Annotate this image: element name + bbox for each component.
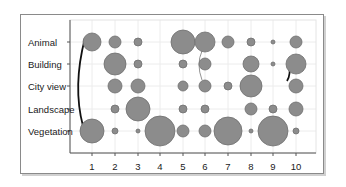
bubble: [249, 129, 253, 133]
x-axis-label: 10: [291, 161, 302, 172]
bubble: [271, 40, 275, 44]
bubble: [245, 103, 257, 115]
x-axis-labels: 12345678910: [89, 161, 301, 172]
y-axis-label: Landscape: [28, 104, 74, 115]
bubble: [83, 33, 101, 51]
x-axis-label: 3: [135, 161, 140, 172]
bubble: [293, 128, 299, 134]
bubble: [243, 56, 259, 72]
y-axis-label: Animal: [28, 37, 57, 48]
bubble: [269, 105, 277, 113]
bubble: [112, 128, 118, 134]
bubble: [271, 62, 275, 66]
bubble: [177, 125, 189, 137]
bubble-chart: AnimalBuildingCity viewLandscapeVegetati…: [0, 0, 346, 187]
x-axis-label: 7: [225, 161, 230, 172]
connector-curve: [78, 38, 85, 126]
x-axis-label: 2: [112, 161, 117, 172]
bubbles: [80, 30, 306, 146]
bubble: [199, 58, 211, 70]
bubble: [80, 119, 104, 143]
bubble: [201, 105, 209, 113]
x-axis-label: 5: [180, 161, 185, 172]
bubble: [289, 102, 303, 116]
y-axis-label: Vegetation: [28, 126, 73, 137]
x-axis-label: 8: [248, 161, 253, 172]
bubble: [178, 81, 188, 91]
bubble: [199, 125, 211, 137]
y-axis-label: Building: [28, 59, 62, 70]
bubble: [145, 116, 175, 146]
x-axis-label: 9: [270, 161, 275, 172]
bubble: [111, 105, 119, 113]
bubble: [286, 54, 306, 74]
bubble: [240, 75, 262, 97]
x-axis-label: 6: [202, 161, 207, 172]
bubble: [258, 116, 288, 146]
bubble: [109, 36, 121, 48]
bubble: [136, 129, 140, 133]
bubble: [224, 82, 232, 90]
bubble: [179, 60, 187, 68]
bubble: [134, 60, 142, 68]
bubble: [247, 38, 255, 46]
bubble: [131, 79, 145, 93]
x-axis-label: 4: [157, 161, 162, 172]
y-axis-label: City view: [28, 81, 66, 92]
bubble: [171, 30, 195, 54]
bubble: [104, 53, 126, 75]
bubble: [126, 97, 150, 121]
bubble: [179, 105, 187, 113]
bubble: [222, 36, 234, 48]
x-axis-label: 1: [89, 161, 94, 172]
bubble: [199, 80, 211, 92]
bubble: [134, 38, 142, 46]
bubble: [290, 36, 302, 48]
bubble: [195, 32, 215, 52]
bubble: [289, 79, 303, 93]
bubble: [214, 117, 242, 145]
bubble: [108, 79, 122, 93]
